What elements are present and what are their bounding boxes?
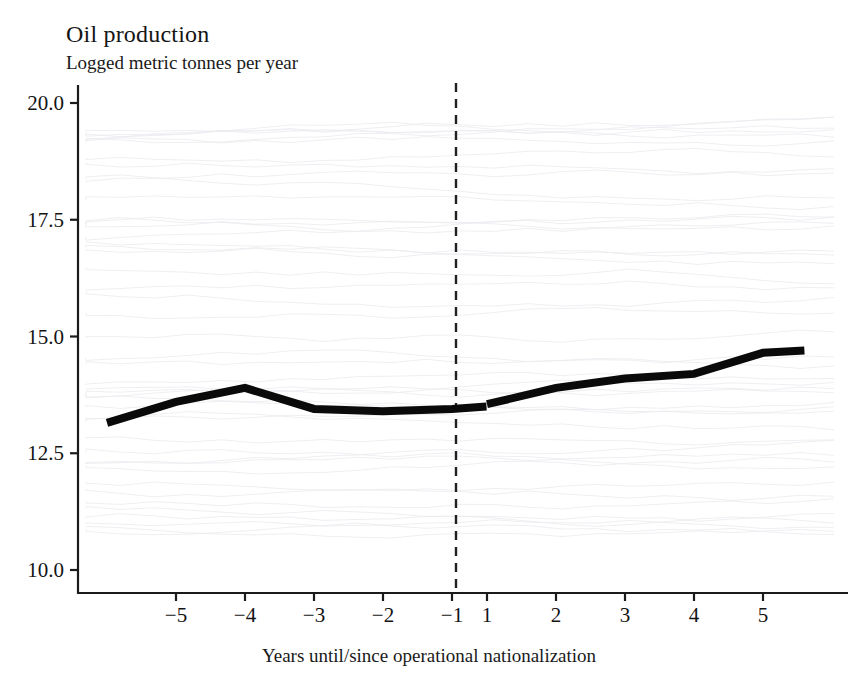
y-tick-label: 15.0 xyxy=(27,325,64,349)
chart-plot-area: 10.012.515.017.520.0−5−4−3−2−112345 xyxy=(0,0,858,682)
y-tick-label: 12.5 xyxy=(27,441,64,465)
background-ghost-series xyxy=(86,117,834,538)
x-tick-label: −4 xyxy=(234,603,257,627)
y-tick-label: 17.5 xyxy=(27,208,64,232)
x-tick-label: −1 xyxy=(441,603,463,627)
x-tick-label: 3 xyxy=(620,603,631,627)
x-axis-caption: Years until/since operational nationaliz… xyxy=(0,645,858,667)
x-tick-label: −5 xyxy=(165,603,187,627)
x-tick-label: 4 xyxy=(689,603,700,627)
chart-tick-labels: 10.012.515.017.520.0−5−4−3−2−112345 xyxy=(27,91,768,627)
y-tick-label: 10.0 xyxy=(27,558,64,582)
x-tick-label: 5 xyxy=(758,603,769,627)
oil-production-figure: Oil production Logged metric tonnes per … xyxy=(0,0,858,682)
x-tick-label: 1 xyxy=(482,603,493,627)
y-tick-label: 20.0 xyxy=(27,91,64,115)
series-line xyxy=(487,351,804,405)
x-tick-label: −2 xyxy=(372,603,394,627)
x-tick-label: −3 xyxy=(303,603,325,627)
x-tick-label: 2 xyxy=(551,603,562,627)
